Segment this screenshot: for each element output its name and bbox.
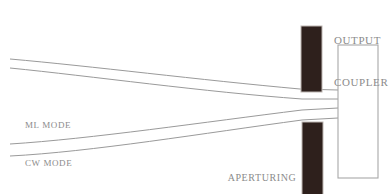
- output-coupler-label-line2: COUPLER: [334, 75, 391, 89]
- aperturing-slit-upper-block: [301, 26, 322, 92]
- optical-schematic-diagram: ML MODE CW MODE APERTURING SLIT OUTPUT C…: [0, 0, 391, 194]
- ml-mode-upper-ray: [10, 59, 338, 90]
- aperturing-slit-label: APERTURING SLIT: [222, 145, 302, 194]
- ray-bundle: [10, 59, 338, 156]
- ml-mode-label: ML MODE: [25, 119, 71, 131]
- ml-mode-lower-ray: [10, 68, 338, 99]
- aperturing-slit-label-line1: APERTURING: [222, 171, 302, 184]
- output-coupler-label-line1: OUTPUT: [334, 33, 391, 47]
- output-coupler-label: OUTPUT COUPLER: [334, 5, 391, 117]
- aperturing-slit-lower-block: [302, 122, 323, 194]
- cw-mode-label: CW MODE: [25, 157, 72, 169]
